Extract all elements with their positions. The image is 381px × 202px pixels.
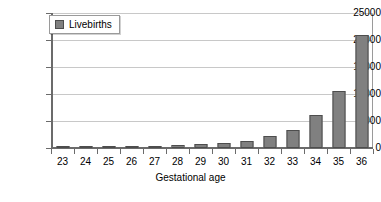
x-axis-tick-label: 33 xyxy=(287,156,298,167)
x-axis-tick-mark xyxy=(51,149,52,154)
bar-slot xyxy=(120,13,143,148)
bar xyxy=(355,35,368,148)
bar-slot xyxy=(327,13,350,148)
bar-slot xyxy=(281,13,304,148)
bar xyxy=(332,91,345,148)
bar xyxy=(102,146,115,148)
x-axis-tick-mark xyxy=(120,149,121,154)
x-axis-tick-label: 27 xyxy=(149,156,160,167)
x-axis-tick-mark xyxy=(97,149,98,154)
x-axis-tick-label: 26 xyxy=(126,156,137,167)
x-axis-tick-label: 36 xyxy=(356,156,367,167)
x-axis-tick-mark xyxy=(212,149,213,154)
x-axis-tick-mark xyxy=(189,149,190,154)
x-axis-tick-label: 28 xyxy=(172,156,183,167)
x-axis-tick-mark xyxy=(74,149,75,154)
bar-slot xyxy=(212,13,235,148)
x-axis-tick-label: 34 xyxy=(310,156,321,167)
chart-legend: Livebirths xyxy=(49,15,120,34)
livebirths-bar-chart: 0500010000150002000025000 23242526272829… xyxy=(0,0,381,202)
legend-label-livebirths: Livebirths xyxy=(69,19,112,30)
bar xyxy=(171,145,184,148)
bar xyxy=(194,144,207,148)
x-axis-tick-mark xyxy=(235,149,236,154)
legend-swatch-livebirths xyxy=(55,20,64,29)
bar xyxy=(240,141,253,148)
x-axis-tick-mark xyxy=(327,149,328,154)
x-axis-tick-label: 24 xyxy=(80,156,91,167)
x-axis-tick-mark xyxy=(166,149,167,154)
bar-slot xyxy=(235,13,258,148)
bar xyxy=(309,115,322,148)
x-axis-tick-label: 29 xyxy=(195,156,206,167)
x-axis-title: Gestational age xyxy=(0,172,381,183)
x-axis-tick-mark xyxy=(373,149,374,154)
bar-slot xyxy=(304,13,327,148)
bar xyxy=(125,146,138,148)
bar-slot xyxy=(350,13,373,148)
x-axis-tick-label: 30 xyxy=(218,156,229,167)
bar xyxy=(148,146,161,148)
bar-slot xyxy=(258,13,281,148)
x-axis-tick-mark xyxy=(143,149,144,154)
bar xyxy=(286,130,299,148)
x-axis-tick-mark xyxy=(350,149,351,154)
bar-slot xyxy=(189,13,212,148)
x-axis-tick-label: 23 xyxy=(57,156,68,167)
x-axis-tick-mark xyxy=(281,149,282,154)
x-axis-tick-label: 32 xyxy=(264,156,275,167)
bar xyxy=(217,143,230,148)
x-axis-tick-label: 35 xyxy=(333,156,344,167)
bar-slot xyxy=(166,13,189,148)
x-axis-tick-label: 31 xyxy=(241,156,252,167)
bar xyxy=(56,146,69,148)
x-axis-tick-label: 25 xyxy=(103,156,114,167)
bar xyxy=(79,146,92,148)
bar-slot xyxy=(143,13,166,148)
bar xyxy=(263,136,276,148)
x-axis-tick-mark xyxy=(304,149,305,154)
x-axis-tick-mark xyxy=(258,149,259,154)
